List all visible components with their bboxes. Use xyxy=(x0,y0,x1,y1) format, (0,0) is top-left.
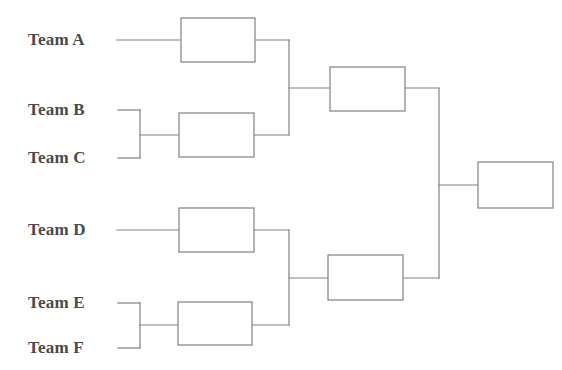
connector-lines-group xyxy=(117,40,478,348)
team-label-team-f: Team F xyxy=(28,339,84,356)
box-semifinal-top[interactable] xyxy=(330,67,405,111)
team-label-team-c: Team C xyxy=(28,149,86,166)
team-label-team-a: Team A xyxy=(28,31,85,48)
team-label-team-b: Team B xyxy=(28,101,85,118)
box-final[interactable] xyxy=(478,162,553,208)
box-semifinal-top-rect[interactable] xyxy=(330,67,405,111)
bracket-canvas xyxy=(0,0,562,370)
box-semifinal-bottom-rect[interactable] xyxy=(328,255,403,300)
box-semifinal-bottom[interactable] xyxy=(328,255,403,300)
box-round1-a-rect[interactable] xyxy=(181,18,255,62)
box-round1-d[interactable] xyxy=(179,208,254,252)
box-round1-bc-rect[interactable] xyxy=(179,113,254,157)
bracket-boxes-group xyxy=(178,18,553,345)
box-round1-d-rect[interactable] xyxy=(179,208,254,252)
box-round1-ef[interactable] xyxy=(178,302,252,345)
tournament-bracket-diagram: Team ATeam BTeam CTeam DTeam ETeam F xyxy=(0,0,562,370)
box-round1-a[interactable] xyxy=(181,18,255,62)
box-round1-ef-rect[interactable] xyxy=(178,302,252,345)
team-label-team-e: Team E xyxy=(28,294,85,311)
team-label-team-d: Team D xyxy=(28,221,86,238)
box-final-rect[interactable] xyxy=(478,162,553,208)
box-round1-bc[interactable] xyxy=(179,113,254,157)
